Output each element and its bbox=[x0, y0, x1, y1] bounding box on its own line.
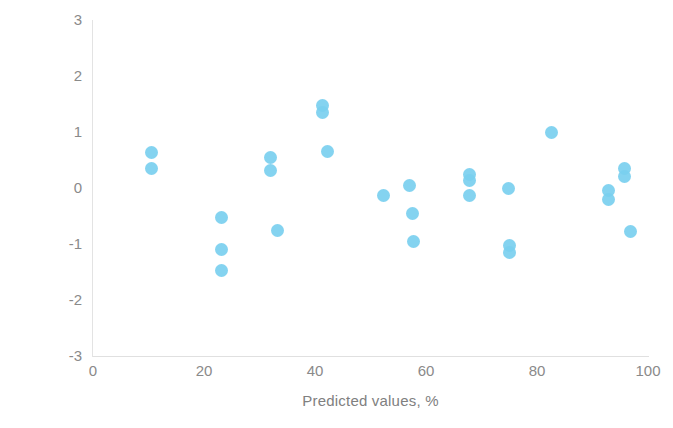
x-tick: 40 bbox=[295, 362, 335, 382]
data-point bbox=[316, 106, 329, 119]
x-tick-label: 20 bbox=[184, 362, 224, 379]
data-point bbox=[215, 243, 228, 256]
data-point bbox=[618, 170, 631, 183]
data-point bbox=[624, 225, 637, 238]
data-point bbox=[321, 145, 334, 158]
y-tick-label: 1 bbox=[54, 123, 82, 140]
x-tick-label: 80 bbox=[517, 362, 557, 379]
x-tick: 100 bbox=[628, 362, 668, 382]
x-tick-label: 0 bbox=[73, 362, 113, 379]
data-point bbox=[463, 189, 476, 202]
plot-area bbox=[93, 20, 648, 356]
data-point bbox=[264, 164, 277, 177]
x-tick: 80 bbox=[517, 362, 557, 382]
data-point bbox=[145, 146, 158, 159]
x-tick: 60 bbox=[406, 362, 446, 382]
data-point bbox=[377, 189, 390, 202]
data-point bbox=[503, 246, 516, 259]
x-tick-label: 40 bbox=[295, 362, 335, 379]
x-axis-line bbox=[93, 356, 649, 357]
data-point bbox=[406, 207, 419, 220]
x-axis-title: Predicted values, % bbox=[93, 392, 648, 409]
data-point bbox=[271, 224, 284, 237]
y-tick-label: 0 bbox=[54, 179, 82, 196]
data-point bbox=[602, 193, 615, 206]
data-point bbox=[403, 179, 416, 192]
y-tick-label: -1 bbox=[54, 235, 82, 252]
scatter-chart: Residuals, % Predicted values, % 3210-1-… bbox=[0, 0, 673, 428]
data-point bbox=[145, 162, 158, 175]
data-point bbox=[407, 235, 420, 248]
data-point bbox=[545, 126, 558, 139]
data-point bbox=[463, 174, 476, 187]
x-tick-label: 60 bbox=[406, 362, 446, 379]
x-tick: 0 bbox=[73, 362, 113, 382]
y-axis-title: Residuals, % bbox=[0, 0, 40, 428]
data-point bbox=[264, 151, 277, 164]
data-point bbox=[215, 264, 228, 277]
data-point bbox=[215, 211, 228, 224]
y-tick-label: -2 bbox=[54, 291, 82, 308]
y-tick-label: 2 bbox=[54, 67, 82, 84]
data-point bbox=[502, 182, 515, 195]
y-tick-label: 3 bbox=[54, 11, 82, 28]
x-tick: 20 bbox=[184, 362, 224, 382]
x-tick-label: 100 bbox=[628, 362, 668, 379]
